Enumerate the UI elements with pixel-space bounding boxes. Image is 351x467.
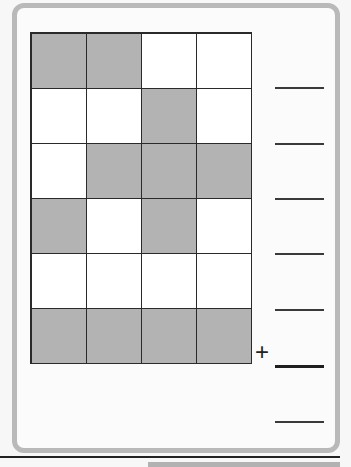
grid-cell-r4-c4	[196, 198, 252, 254]
grid-cell-r5-c1	[31, 253, 87, 309]
footer-bar	[148, 462, 340, 467]
sum-answer-line[interactable]	[275, 365, 324, 368]
grid-cell-r1-c2	[86, 33, 142, 89]
grid-cell-r2-c3	[141, 88, 197, 144]
grid-cell-r1-c3	[141, 33, 197, 89]
grid-cell-r5-c4	[196, 253, 252, 309]
grid-cell-r4-c1	[31, 198, 87, 254]
grid-cell-r1-c1	[31, 33, 87, 89]
answer-line-row-3[interactable]	[275, 143, 324, 145]
grid-cell-r4-c2	[86, 198, 142, 254]
grid-cell-r6-c4	[196, 308, 252, 364]
grid-cell-r5-c2	[86, 253, 142, 309]
grid-cell-r6-c1	[31, 308, 87, 364]
grid-cell-r3-c3	[141, 143, 197, 199]
grid-cell-r6-c3	[141, 308, 197, 364]
grid-cell-r6-c2	[86, 308, 142, 364]
grid-cell-r2-c4	[196, 88, 252, 144]
grid-cell-r2-c2	[86, 88, 142, 144]
plus-sign: +	[255, 340, 269, 364]
answer-line-row-4[interactable]	[275, 198, 324, 200]
grid-cell-r3-c1	[31, 143, 87, 199]
grid-cell-r1-c4	[196, 33, 252, 89]
shading-grid	[30, 32, 252, 364]
grid-cell-r5-c3	[141, 253, 197, 309]
grid-cell-r3-c2	[86, 143, 142, 199]
grid-cell-r3-c4	[196, 143, 252, 199]
grid-cell-r4-c3	[141, 198, 197, 254]
page-divider-rule	[0, 456, 340, 458]
grid-cell-r2-c1	[31, 88, 87, 144]
total-answer-line[interactable]	[275, 421, 324, 423]
answer-line-row-5[interactable]	[275, 253, 324, 255]
answer-line-row-2[interactable]	[275, 87, 324, 89]
answer-line-row-6[interactable]	[275, 309, 324, 311]
